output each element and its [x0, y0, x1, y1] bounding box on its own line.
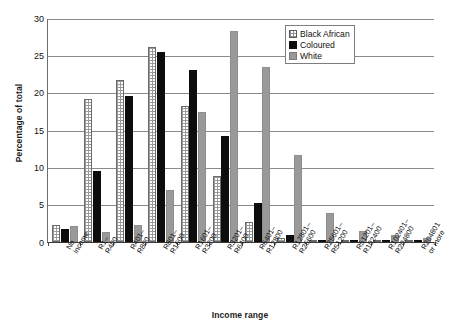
- legend-item: White: [289, 50, 350, 61]
- bar: [84, 99, 92, 242]
- x-axis-title-text: Income range: [212, 310, 268, 320]
- bar: [262, 67, 270, 242]
- bar: [189, 70, 197, 242]
- legend-swatch-icon: [289, 30, 297, 38]
- bar-group: [113, 19, 145, 242]
- bar: [148, 47, 156, 242]
- x-axis-tick: [48, 242, 49, 246]
- bar: [93, 171, 101, 242]
- legend-item: Coloured: [289, 39, 350, 50]
- x-axis-category-labels: NoincomeR1–R400R401–R800R801–R1600R1601–…: [48, 247, 434, 309]
- y-tick-label-0: 0: [39, 238, 44, 248]
- bar-group: [177, 19, 209, 242]
- bar: [181, 106, 189, 242]
- bar: [157, 52, 165, 242]
- y-tick-label-5: 5: [39, 200, 44, 210]
- bar-group: [49, 19, 81, 242]
- bar-group: [402, 19, 434, 242]
- bar: [230, 31, 238, 242]
- y-tick-label-20: 20: [34, 88, 44, 98]
- y-tick-label-30: 30: [34, 14, 44, 24]
- bar: [254, 203, 262, 242]
- y-tick-label-25: 25: [34, 51, 44, 61]
- bar-group: [241, 19, 273, 242]
- bar-group: [145, 19, 177, 242]
- x-axis-title: Income range: [0, 310, 442, 320]
- y-axis-title: Percentage of total: [14, 43, 24, 203]
- bar-group: [81, 19, 113, 242]
- legend-label: Coloured: [300, 40, 335, 50]
- chart-legend: Black AfricanColouredWhite: [285, 25, 355, 64]
- legend-label: Black African: [300, 29, 350, 39]
- y-tick-label-10: 10: [34, 163, 44, 173]
- bar: [125, 96, 133, 242]
- bar: [52, 225, 60, 242]
- bar: [221, 136, 229, 242]
- legend-item: Black African: [289, 28, 350, 39]
- legend-swatch-icon: [289, 52, 297, 60]
- bar-group: [209, 19, 241, 242]
- legend-swatch-icon: [289, 41, 297, 49]
- bar-groups: [49, 19, 434, 242]
- legend-label: White: [300, 51, 322, 61]
- y-tick-label-15: 15: [34, 126, 44, 136]
- plot-area: 051015202530: [47, 19, 434, 243]
- bar: [198, 112, 206, 242]
- bar: [116, 80, 124, 242]
- bar-group: [370, 19, 402, 242]
